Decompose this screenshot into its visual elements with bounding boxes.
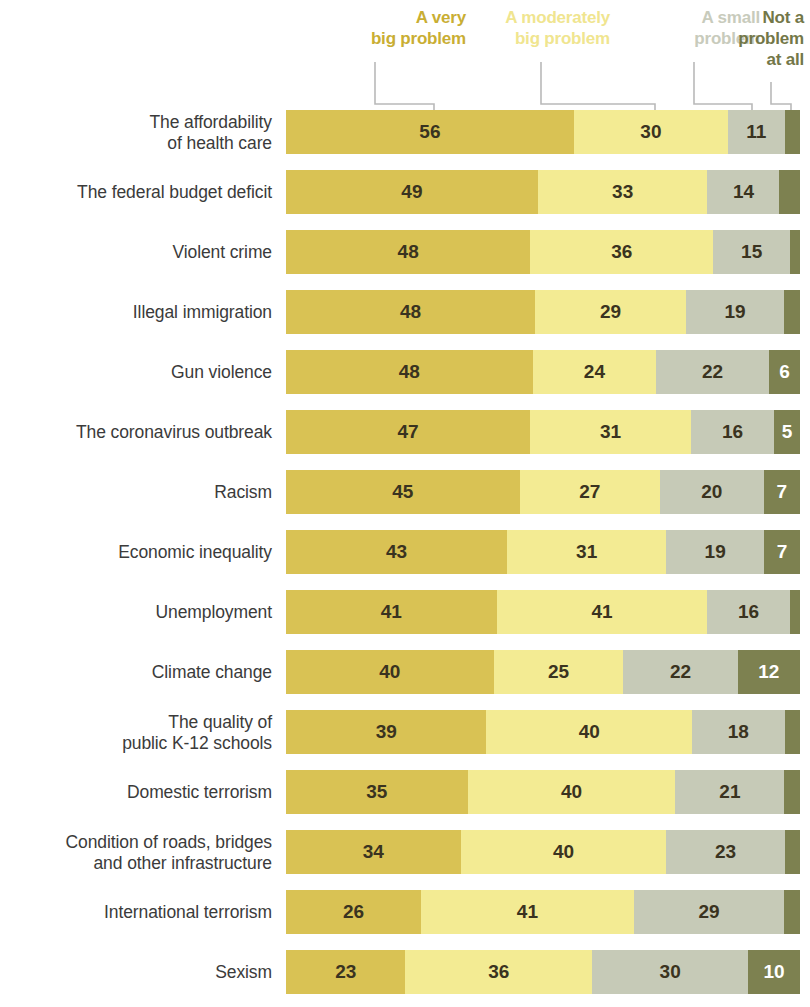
- row-label-line: Illegal immigration: [0, 302, 272, 323]
- chart-row: Gun violence4824226: [0, 350, 810, 410]
- bar-segment: 3: [784, 290, 800, 334]
- bar-segment: 23: [666, 830, 784, 874]
- row-label-line: International terrorism: [0, 902, 272, 923]
- bar-segment-value: 47: [397, 421, 418, 443]
- bar-segment: 31: [530, 410, 691, 454]
- chart-row: The federal budget deficit4933144: [0, 170, 810, 230]
- stacked-bar: 4141162: [286, 590, 800, 634]
- bar-segment-value: 10: [763, 961, 784, 983]
- bar-segment: 40: [286, 650, 494, 694]
- bar-segment: 24: [533, 350, 656, 394]
- bar-segment: 45: [286, 470, 520, 514]
- chart-row: Sexism23363010: [0, 950, 810, 1007]
- row-label: The federal budget deficit: [0, 170, 272, 203]
- bar-segment: 16: [707, 590, 789, 634]
- bar-segment: 3: [785, 110, 800, 154]
- chart-row: The coronavirus outbreak4731165: [0, 410, 810, 470]
- bar-segment-value: 23: [715, 841, 736, 863]
- bar-segment: 49: [286, 170, 538, 214]
- bar-segment: 7: [764, 530, 800, 574]
- bar-segment-value: 40: [579, 721, 600, 743]
- stacked-bar: 4829193: [286, 290, 800, 334]
- row-label-line: Economic inequality: [0, 542, 272, 563]
- bar-segment: 22: [623, 650, 737, 694]
- row-label: Gun violence: [0, 350, 272, 383]
- bar-segment: 33: [538, 170, 708, 214]
- row-label: International terrorism: [0, 890, 272, 923]
- row-label-line: The coronavirus outbreak: [0, 422, 272, 443]
- bar-segment: 5: [774, 410, 800, 454]
- bar-segment: 20: [660, 470, 764, 514]
- bar-segment-value: 36: [611, 241, 632, 263]
- bar-segment: 2: [790, 590, 800, 634]
- chart-row: Economic inequality4331197: [0, 530, 810, 590]
- bar-segment-value: 23: [335, 961, 356, 983]
- bar-segment-value: 16: [722, 421, 743, 443]
- bar-segment: 26: [286, 890, 421, 934]
- bar-segment: 29: [535, 290, 686, 334]
- stacked-bar: 3540213: [286, 770, 800, 814]
- bar-segment-value: 34: [363, 841, 384, 863]
- row-label: Domestic terrorism: [0, 770, 272, 803]
- chart-row: International terrorism2641293: [0, 890, 810, 950]
- bar-segment: 30: [574, 110, 728, 154]
- bar-segment-value: 33: [612, 181, 633, 203]
- bar-segment-value: 40: [379, 661, 400, 683]
- bar-segment-value: 16: [738, 601, 759, 623]
- chart-row: Condition of roads, bridgesand other inf…: [0, 830, 810, 890]
- stacked-bar: 4331197: [286, 530, 800, 574]
- chart-rows: The affordabilityof health care5630113Th…: [0, 110, 810, 1007]
- bar-segment-value: 19: [705, 541, 726, 563]
- row-label-line: Unemployment: [0, 602, 272, 623]
- bar-segment: 7: [764, 470, 800, 514]
- row-label: Unemployment: [0, 590, 272, 623]
- bar-segment-value: 35: [366, 781, 387, 803]
- bar-segment-value: 48: [400, 301, 421, 323]
- bar-segment-value: 26: [343, 901, 364, 923]
- bar-segment: 25: [494, 650, 624, 694]
- row-label-line: The affordability: [0, 112, 272, 133]
- row-label: Condition of roads, bridgesand other inf…: [0, 830, 272, 874]
- row-label: The quality ofpublic K-12 schools: [0, 710, 272, 754]
- bar-segment: 10: [748, 950, 800, 994]
- bar-segment: 56: [286, 110, 574, 154]
- row-label-line: public K-12 schools: [0, 733, 272, 754]
- bar-segment-value: 29: [600, 301, 621, 323]
- bar-segment-value: 18: [728, 721, 749, 743]
- bar-segment-value: 22: [702, 361, 723, 383]
- row-label-line: Violent crime: [0, 242, 272, 263]
- bar-segment-value: 27: [579, 481, 600, 503]
- bar-segment: 3: [784, 770, 800, 814]
- bar-segment-value: 40: [553, 841, 574, 863]
- stacked-bar-chart: A verybig problem A moderatelybig proble…: [0, 0, 810, 1007]
- bar-segment-value: 25: [548, 661, 569, 683]
- stacked-bar: 2641293: [286, 890, 800, 934]
- bar-segment: 22: [656, 350, 769, 394]
- bar-segment: 19: [686, 290, 785, 334]
- bar-segment: 41: [497, 590, 708, 634]
- bar-segment-value: 49: [401, 181, 422, 203]
- bar-segment-value: 6: [779, 361, 790, 383]
- bar-segment: 40: [486, 710, 692, 754]
- row-label-line: The federal budget deficit: [0, 182, 272, 203]
- chart-row: The quality ofpublic K-12 schools3940183: [0, 710, 810, 770]
- stacked-bar: 23363010: [286, 950, 800, 994]
- bar-segment: 6: [769, 350, 800, 394]
- bar-segment-value: 41: [381, 601, 402, 623]
- bar-segment: 16: [691, 410, 774, 454]
- bar-segment: 18: [692, 710, 785, 754]
- bar-segment-value: 31: [576, 541, 597, 563]
- bar-segment-value: 12: [758, 661, 779, 683]
- bar-segment: 36: [530, 230, 713, 274]
- bar-segment: 14: [707, 170, 779, 214]
- bar-segment: 48: [286, 230, 530, 274]
- bar-segment-value: 48: [398, 241, 419, 263]
- bar-segment-value: 24: [584, 361, 605, 383]
- bar-segment-value: 20: [701, 481, 722, 503]
- bar-segment-value: 39: [376, 721, 397, 743]
- chart-row: The affordabilityof health care5630113: [0, 110, 810, 170]
- bar-segment-value: 30: [660, 961, 681, 983]
- bar-segment-value: 15: [741, 241, 762, 263]
- bar-segment: 39: [286, 710, 486, 754]
- bar-segment-value: 19: [725, 301, 746, 323]
